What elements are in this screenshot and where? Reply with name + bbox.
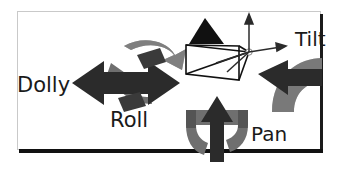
black-triangle-marker <box>189 18 224 44</box>
camera-motion-diagram: Dolly Roll Tilt Pan <box>0 0 344 173</box>
tilt-rotation-arrow-group <box>258 58 322 112</box>
label-tilt: Tilt <box>295 27 326 51</box>
pan-arrow-group <box>186 96 248 162</box>
pan-up-arrow <box>201 96 233 162</box>
dolly-roll-arrow-group <box>72 40 186 112</box>
coordinate-axes <box>216 14 286 72</box>
label-roll: Roll <box>110 108 148 132</box>
label-pan: Pan <box>251 122 287 146</box>
label-dolly: Dolly <box>17 73 70 97</box>
